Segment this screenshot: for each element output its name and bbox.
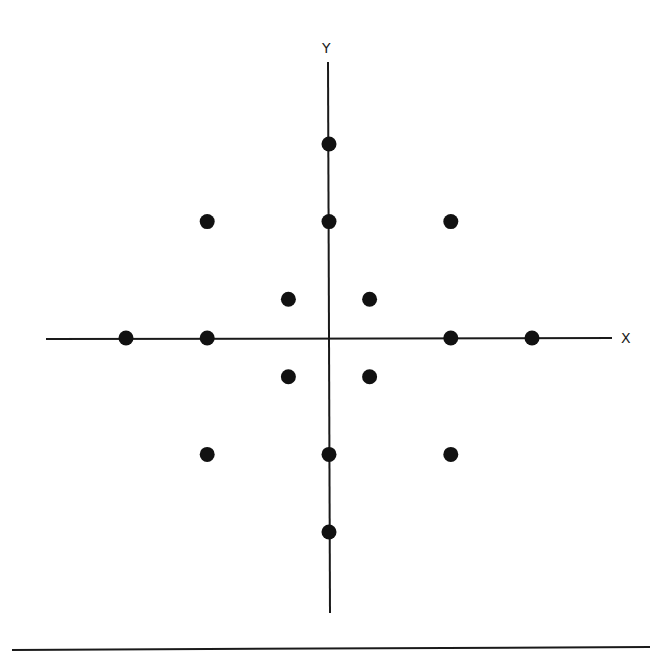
data-point (322, 214, 337, 229)
x-axis-label: X (621, 331, 631, 345)
bottom-rule (12, 647, 650, 650)
data-point (362, 369, 377, 384)
data-point (200, 214, 215, 229)
data-point (443, 214, 458, 229)
data-point (322, 525, 337, 540)
data-point (443, 447, 458, 462)
data-point (281, 292, 296, 307)
data-point (525, 331, 540, 346)
y-axis-label: Y (322, 41, 331, 55)
scatter-diagram (0, 0, 669, 661)
data-point (119, 331, 134, 346)
data-point (200, 447, 215, 462)
data-point (281, 369, 296, 384)
data-point (362, 292, 377, 307)
data-point (322, 137, 337, 152)
data-point (443, 331, 458, 346)
data-point (322, 447, 337, 462)
data-point (200, 331, 215, 346)
